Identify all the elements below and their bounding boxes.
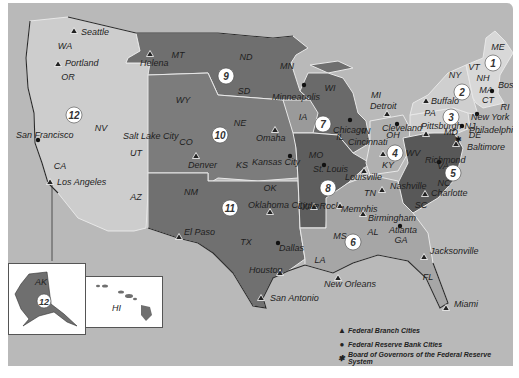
bank-city-label: San Francisco xyxy=(16,130,74,140)
state-label-sd: SD xyxy=(238,86,251,96)
bank-city-dot-icon xyxy=(490,89,494,93)
state-label-ms: MS xyxy=(333,231,347,241)
branch-city-label: Houston xyxy=(249,265,283,275)
district-number: 8 xyxy=(325,183,331,194)
triangle-icon: ▲ xyxy=(336,326,348,335)
branch-city-label: Nashville xyxy=(390,181,427,191)
district-badge-10: 10 xyxy=(212,127,228,143)
district-badge-2: 2 xyxy=(454,84,470,100)
branch-city-label: Birmingham xyxy=(368,213,417,223)
branch-city-label: Los Angeles xyxy=(57,177,107,187)
state-label-ut: UT xyxy=(130,148,143,158)
state-label-ia: IA xyxy=(299,112,308,122)
branch-city-label: Louisville xyxy=(345,172,382,182)
state-label-ri: RI xyxy=(501,102,510,112)
district-number: 2 xyxy=(458,87,465,98)
state-label-la: LA xyxy=(314,255,325,265)
district-badge-8: 8 xyxy=(320,180,336,196)
branch-city-label: Seattle xyxy=(81,27,109,37)
branch-city-label: Jacksonville xyxy=(429,246,479,256)
district-number: 5 xyxy=(450,168,456,179)
branch-city-label: San Antonio xyxy=(270,293,319,303)
district-number: 7 xyxy=(320,119,326,130)
state-label-ga: GA xyxy=(394,235,407,245)
district-badge-4: 4 xyxy=(387,145,403,161)
bank-city-label: St. Louis xyxy=(313,164,349,174)
bank-city-label: Cleveland xyxy=(382,123,423,133)
bank-city-label: Kansas City xyxy=(252,157,301,167)
state-label-ok: OK xyxy=(263,183,277,193)
district-badge-5: 5 xyxy=(445,165,461,181)
district-badge-7: 7 xyxy=(315,116,331,132)
district-badge-3: 3 xyxy=(443,109,459,125)
branch-city-label: Denver xyxy=(188,160,218,170)
district-number: 4 xyxy=(391,148,398,159)
dot-icon: ● xyxy=(336,340,348,349)
federal-reserve-map: WAORCANVUTAZMTWYCONMNDSDNEKSOKTXMNIAMOAR… xyxy=(8,3,513,366)
district-badge-9: 9 xyxy=(218,68,234,84)
district-badge-1: 1 xyxy=(485,55,501,71)
state-label-pa: PA xyxy=(424,108,435,118)
state-label-nm: NM xyxy=(184,187,198,197)
branch-city-label: Salt Lake City xyxy=(123,131,179,141)
state-label-ct: CT xyxy=(482,95,495,105)
alaska-label: AK xyxy=(34,277,48,287)
district-number: 11 xyxy=(225,203,236,214)
branch-city-label: Miami xyxy=(454,299,479,309)
state-label-nh: NH xyxy=(477,73,490,83)
district-9-up-region xyxy=(310,61,353,73)
bank-city-dot-icon xyxy=(348,118,352,122)
state-label-mt: MT xyxy=(172,50,186,60)
state-label-wv: WV xyxy=(406,148,421,158)
district-number: 3 xyxy=(448,112,454,123)
board-of-governors-star-icon: ✱ xyxy=(455,135,462,144)
state-label-nd: ND xyxy=(240,52,253,62)
branch-city-label: New Orleans xyxy=(324,279,377,289)
state-label-fl: FL xyxy=(423,272,434,282)
branch-city-label: Buffalo xyxy=(431,96,459,106)
state-label-ky: KY xyxy=(382,160,395,170)
state-label-ny: NY xyxy=(449,70,462,80)
alaska-shape: AK 12 xyxy=(9,264,85,334)
bank-city-label: Boston xyxy=(498,80,513,90)
district-badge-11: 11 xyxy=(222,200,238,216)
state-label-ne: NE xyxy=(234,118,247,128)
state-label-or: OR xyxy=(61,72,75,82)
branch-city-label: Baltimore xyxy=(467,142,505,152)
state-label-tn: TN xyxy=(364,188,376,198)
state-label-al: AL xyxy=(366,227,378,237)
legend-label: Federal Branch Cities xyxy=(348,327,420,334)
district-number: 1 xyxy=(490,58,496,69)
state-label-wi: WI xyxy=(325,83,336,93)
branch-city-label: Omaha xyxy=(256,133,286,143)
legend-label: Board of Governors of the Federal Reserv… xyxy=(348,351,516,365)
bank-city-label: Chicago xyxy=(333,125,366,135)
branch-city-label: Charlotte xyxy=(431,188,468,198)
state-label-nv: NV xyxy=(95,123,108,133)
district-badge-12: 12 xyxy=(66,107,82,123)
legend-board-of-governors: ✱ Board of Governors of the Federal Rese… xyxy=(336,351,516,365)
district-badge-6: 6 xyxy=(345,234,361,250)
branch-city-triangle-icon xyxy=(384,111,391,117)
bank-city-label: Dallas xyxy=(279,243,305,253)
branch-city-label: Little Rock xyxy=(298,201,341,211)
district-number: 12 xyxy=(68,110,80,121)
state-label-mn: MN xyxy=(280,61,294,71)
state-label-wy: WY xyxy=(176,95,191,105)
map-legend: ▲ Federal Branch Cities ● Federal Reserv… xyxy=(336,323,516,365)
alaska-inset: AK 12 xyxy=(8,263,86,335)
state-label-vt: VT xyxy=(468,62,481,72)
legend-bank-cities: ● Federal Reserve Bank Cities xyxy=(336,337,516,351)
state-label-tx: TX xyxy=(240,237,252,247)
state-label-ca: CA xyxy=(54,161,67,171)
branch-city-label: Cincinnati xyxy=(348,137,389,147)
branch-city-label: Portland xyxy=(65,58,100,68)
star-icon: ✱ xyxy=(336,354,348,363)
bank-city-label: Richmond xyxy=(425,155,467,165)
district-number: 10 xyxy=(214,130,226,141)
state-label-mo: MO xyxy=(309,150,324,160)
state-label-wa: WA xyxy=(58,41,72,51)
district-number: 6 xyxy=(350,237,356,248)
district-11-region xyxy=(148,173,305,308)
bank-city-label: Atlanta xyxy=(388,225,417,235)
